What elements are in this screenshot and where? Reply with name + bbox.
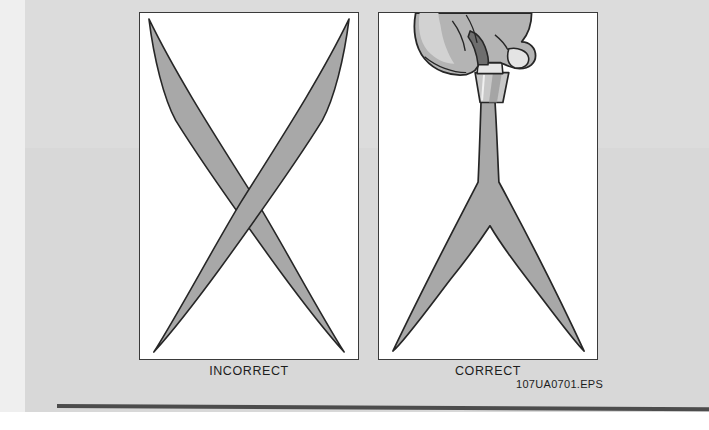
figure-id-label: 107UA0701.EPS — [516, 378, 603, 390]
page-bottom-margin — [0, 412, 709, 430]
correct-diagram — [379, 13, 597, 359]
figure-page: INCORRECT CORRECT 107UA0701.EPS — [0, 0, 709, 430]
illustration-panel-correct — [378, 12, 598, 360]
page-left-edge — [0, 0, 25, 412]
page-paper-lower-shade — [25, 148, 709, 412]
crossed-strand-right-to-left — [154, 19, 349, 352]
y-strand-stem-and-legs — [393, 100, 584, 351]
caption-correct: CORRECT — [378, 364, 598, 378]
incorrect-diagram — [140, 13, 358, 359]
finger-tip — [508, 48, 529, 68]
crossed-strand-left-to-right — [149, 19, 344, 352]
illustration-panel-incorrect — [139, 12, 359, 360]
caption-incorrect: INCORRECT — [139, 364, 359, 378]
